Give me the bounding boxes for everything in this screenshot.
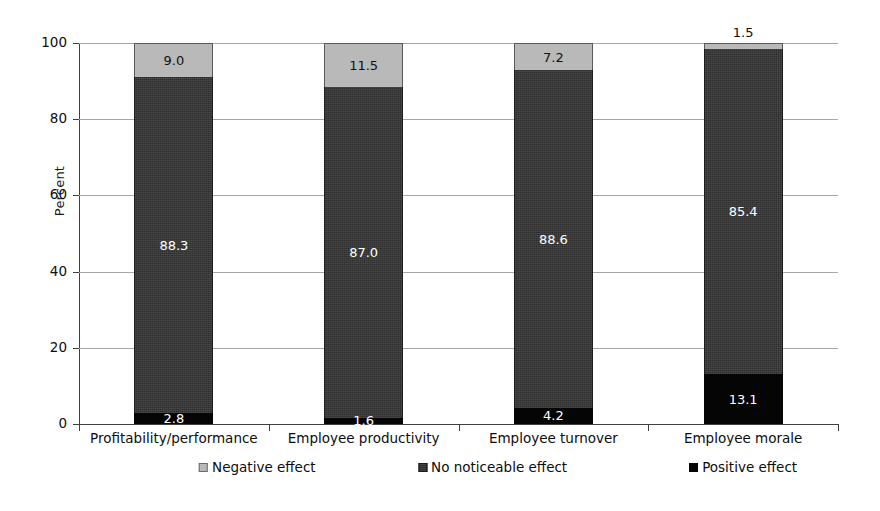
bar-segment-positive-effect[interactable]: 13.1 — [704, 374, 783, 424]
bar-segment-positive-effect[interactable]: 4.2 — [514, 408, 593, 424]
legend-label: Positive effect — [702, 461, 797, 475]
bar-stack[interactable]: 7.288.64.2 — [514, 43, 593, 424]
bar-segment-positive-effect[interactable]: 2.8 — [134, 413, 213, 424]
y-axis-tick — [73, 348, 79, 349]
bar-segment-no-noticeable-effect[interactable]: 85.4 — [704, 49, 783, 374]
y-axis-tick-label: 20 — [21, 339, 67, 355]
plot-area: 0204060801009.088.32.811.587.01.67.288.6… — [79, 43, 838, 424]
legend-item-2[interactable]: No noticeable effect — [418, 461, 567, 475]
x-axis-category-labels: Profitability/performanceEmployee produc… — [79, 430, 838, 454]
bar-segment-negative-effect[interactable]: 9.0 — [134, 43, 213, 77]
bar-segment-value-label: 1.6 — [353, 414, 374, 427]
y-axis-tick-label: 100 — [21, 34, 67, 50]
y-axis-tick-label: 80 — [21, 110, 67, 126]
legend-swatch-icon — [689, 463, 698, 472]
bar-segment-value-label: 88.3 — [159, 239, 188, 252]
bar-stack[interactable]: 1.585.413.1 — [704, 43, 783, 424]
legend-item-3[interactable]: Positive effect — [689, 461, 797, 475]
bar-segment-value-label: 85.4 — [729, 205, 758, 218]
legend-swatch-icon — [418, 463, 427, 472]
bar-segment-value-label: 13.1 — [729, 393, 758, 406]
legend-label: No noticeable effect — [431, 461, 567, 475]
y-axis-tick — [73, 119, 79, 120]
legend-label: Negative effect — [212, 461, 316, 475]
bar-segment-value-label: 88.6 — [539, 233, 568, 246]
bar-segment-negative-effect[interactable]: 7.2 — [514, 43, 593, 70]
bar-segment-value-label: 11.5 — [349, 59, 378, 72]
bar-stack[interactable]: 11.587.01.6 — [324, 43, 403, 424]
chart-legend: Negative effectNo noticeable effectPosit… — [79, 461, 838, 483]
bar-segment-value-label: 4.2 — [543, 409, 564, 422]
bar-segment-value-label: 1.5 — [733, 25, 754, 40]
y-axis-tick — [73, 195, 79, 196]
bar-segment-value-label: 2.8 — [164, 412, 185, 425]
x-axis-label-1: Profitability/performance — [90, 430, 258, 446]
x-axis-label-3: Employee turnover — [489, 430, 618, 446]
bar-segment-value-label: 9.0 — [164, 54, 185, 67]
x-axis-label-2: Employee productivity — [288, 430, 440, 446]
y-axis-tick — [73, 272, 79, 273]
y-axis-tick-label: 0 — [21, 415, 67, 431]
stacked-bar-chart: Percent 0204060801009.088.32.811.587.01.… — [0, 0, 880, 511]
y-axis-tick-label: 60 — [21, 186, 67, 202]
bar-segment-no-noticeable-effect[interactable]: 88.3 — [134, 77, 213, 413]
bar-segment-no-noticeable-effect[interactable]: 88.6 — [514, 70, 593, 408]
y-axis-line — [79, 43, 80, 425]
bar-segment-no-noticeable-effect[interactable]: 87.0 — [324, 87, 403, 418]
bar-segment-positive-effect[interactable]: 1.6 — [324, 418, 403, 424]
y-axis-tick — [73, 43, 79, 44]
legend-item-1[interactable]: Negative effect — [199, 461, 316, 475]
x-axis-label-4: Employee morale — [684, 430, 802, 446]
bar-segment-value-label: 7.2 — [543, 51, 564, 64]
x-axis-tick — [838, 424, 839, 431]
legend-swatch-icon — [199, 463, 208, 472]
bar-segment-negative-effect[interactable]: 11.5 — [324, 43, 403, 87]
y-axis-tick-label: 40 — [21, 263, 67, 279]
bar-stack[interactable]: 9.088.32.8 — [134, 43, 213, 424]
bar-segment-value-label: 87.0 — [349, 246, 378, 259]
